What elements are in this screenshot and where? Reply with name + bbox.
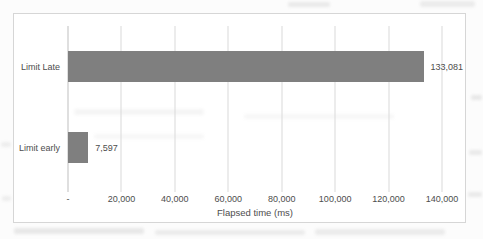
- background-artifact: [468, 192, 482, 197]
- value-label: 133,081: [431, 60, 464, 74]
- background-artifact: [315, 229, 445, 235]
- bar-limit-early: [68, 132, 88, 163]
- screenshot-page: Flapsed time (ms) -20,00040,00060,00080,…: [0, 0, 483, 239]
- x-axis-title: Flapsed time (ms): [217, 207, 293, 218]
- plot-area: Flapsed time (ms) -20,00040,00060,00080,…: [68, 26, 442, 188]
- x-tick-label: 140,000: [426, 194, 459, 204]
- background-artifact: [14, 228, 144, 234]
- background-artifact: [2, 196, 11, 201]
- x-tick-label: 40,000: [161, 194, 189, 204]
- category-label: Limit Late: [21, 59, 60, 75]
- background-artifact: [469, 150, 482, 155]
- gridline: [442, 26, 443, 192]
- background-artifact: [471, 95, 482, 100]
- x-tick-label: 100,000: [319, 194, 352, 204]
- background-artifact: [155, 230, 305, 235]
- background-artifact: [288, 2, 330, 7]
- x-tick-label: 20,000: [108, 194, 136, 204]
- x-tick-label: 120,000: [372, 194, 405, 204]
- x-tick-label: -: [67, 194, 70, 204]
- x-tick-label: 60,000: [215, 194, 243, 204]
- background-artifact: [1, 142, 11, 147]
- bar-chart: Flapsed time (ms) -20,00040,00060,00080,…: [13, 13, 466, 223]
- value-label: 7,597: [95, 141, 118, 155]
- category-label: Limit early: [19, 140, 60, 156]
- bar-limit-late: [68, 51, 424, 82]
- x-tick-label: 80,000: [268, 194, 296, 204]
- background-artifact: [420, 1, 475, 7]
